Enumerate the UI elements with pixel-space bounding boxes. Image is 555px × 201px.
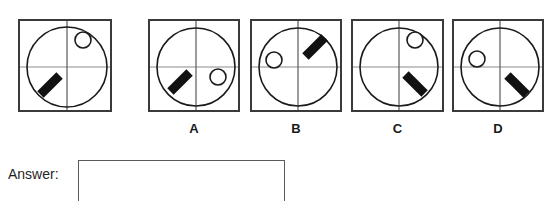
option-a-label: A: [148, 122, 240, 136]
answer-row: Answer:: [0, 152, 555, 201]
option-a-drawing: [150, 21, 238, 110]
reference-drawing: [20, 21, 110, 110]
option-a-bar-marker: [167, 69, 192, 94]
option-c-bar-marker: [402, 71, 427, 96]
option-a-panel[interactable]: [148, 19, 240, 112]
option-a-small-circle-marker: [210, 69, 226, 85]
option-d-small-circle-marker: [469, 51, 485, 67]
option-b-bar-marker: [302, 34, 327, 59]
option-b-label: B: [250, 122, 342, 136]
option-c-label: C: [351, 122, 444, 136]
option-b-small-circle-marker: [266, 52, 282, 68]
reference-small-circle-marker: [75, 32, 91, 48]
reference-bar-marker: [37, 72, 62, 97]
option-c-small-circle-marker: [407, 32, 423, 48]
puzzle-stage: ABCD Answer:: [0, 0, 555, 201]
option-d-label: D: [452, 122, 544, 136]
answer-box[interactable]: [78, 160, 285, 201]
answer-label: Answer:: [8, 166, 59, 183]
answer-input[interactable]: [79, 161, 284, 201]
option-d-bar-marker: [504, 72, 529, 97]
option-c-drawing: [353, 21, 442, 110]
option-d-drawing: [454, 21, 542, 110]
option-d-panel[interactable]: [452, 19, 544, 112]
option-b-panel[interactable]: [250, 19, 342, 112]
option-c-panel[interactable]: [351, 19, 444, 112]
option-b-drawing: [252, 21, 340, 110]
reference-figure-panel: [18, 19, 112, 112]
